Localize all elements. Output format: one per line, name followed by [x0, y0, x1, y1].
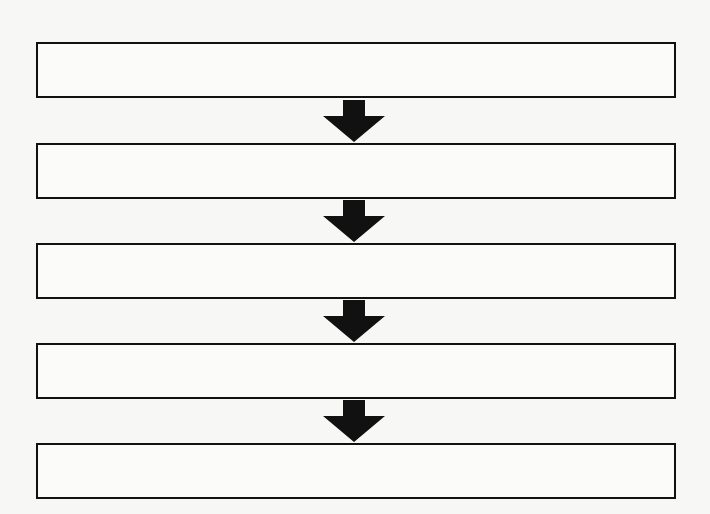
step-box-2 — [36, 143, 676, 199]
step-box-3 — [36, 243, 676, 299]
down-arrow-icon — [321, 300, 387, 342]
down-arrow-icon — [321, 100, 387, 142]
down-arrow-icon — [321, 200, 387, 242]
step-box-1 — [36, 42, 676, 98]
down-arrow-icon — [321, 400, 387, 442]
step-box-4 — [36, 343, 676, 399]
step-box-5 — [36, 443, 676, 499]
